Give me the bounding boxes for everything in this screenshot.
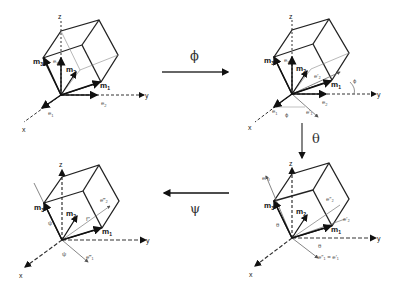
- e2-triple-prime-label: e‴₂: [100, 197, 108, 203]
- e2-prime-label: e′₂: [343, 216, 350, 222]
- m3-label: m3: [34, 203, 44, 213]
- panel-2: z y x m3 e3 m2 m1 e2 e1 e′₂ e′₁ ϕ ϕ: [248, 13, 381, 131]
- theta-angle-label: θ: [276, 222, 280, 228]
- e3-label: e3: [284, 57, 290, 65]
- e2-prime-label: e′₂: [314, 73, 321, 79]
- y-axis-label: y: [146, 237, 150, 245]
- e2-label: e2: [101, 100, 107, 108]
- psi-angle-label: ψ: [48, 220, 52, 226]
- z-axis-label: z: [59, 161, 63, 168]
- e1-triple-prime-label: e‴₁: [86, 254, 94, 260]
- theta-transition: θ: [302, 123, 320, 158]
- phi-transition: ϕ: [162, 48, 228, 72]
- x-axis: [255, 238, 292, 266]
- m2-label: m2: [66, 209, 76, 219]
- phi-angle-label: ϕ: [353, 78, 357, 84]
- e2-double-prime-label: e″₂: [326, 196, 334, 202]
- panel-4: z y x m3 m2 m1 e‴₂ e‴₁ f″ ψ ψ: [19, 161, 150, 279]
- e1-prime-axis: [292, 94, 318, 117]
- m1-label: m1: [102, 227, 112, 237]
- z-axis-label: z: [58, 13, 62, 20]
- e1-label: e1: [48, 110, 54, 118]
- euler-rotation-diagram: z y x m3 e3 m2 m1 e2 e1 ϕ z: [0, 0, 398, 293]
- z-axis-label: z: [289, 160, 293, 167]
- x-axis-label: x: [248, 124, 252, 131]
- e2-label: e2: [322, 99, 328, 107]
- e1-equality-label: e″₁ = e′₁: [318, 254, 339, 260]
- theta-label: θ: [312, 131, 320, 146]
- x-axis-label: x: [22, 126, 26, 133]
- m3-label: m3: [264, 56, 274, 66]
- psi-transition: ψ: [164, 193, 229, 216]
- m1-label: m1: [331, 225, 341, 235]
- phi-label: ϕ: [190, 48, 199, 63]
- e1-prime-axis: [292, 238, 318, 258]
- panel-3: z y x m3 m2 m1 e″₃ e″₂ e′₂ e″₁ = e′₁ θ θ: [249, 160, 381, 278]
- y-axis-label: y: [145, 92, 149, 100]
- x-axis-label: x: [19, 272, 23, 279]
- theta-angle-label-2: θ: [318, 243, 322, 249]
- e1-prime-label: e′₁: [306, 109, 313, 115]
- psi-label: ψ: [190, 201, 200, 216]
- psi-angle-label-2: ψ: [62, 251, 66, 257]
- e1-vector: [42, 95, 61, 108]
- m1-label: m1: [100, 81, 110, 91]
- panel-1: z y x m3 e3 m2 m1 e2 e1: [22, 13, 149, 133]
- e1-label: e1: [272, 108, 278, 116]
- y-axis-label: y: [377, 235, 381, 243]
- m2-vector: [61, 72, 76, 95]
- f-double-prime-label: f″: [86, 216, 91, 222]
- e3-double-prime-label: e″₃: [262, 175, 270, 181]
- m1-vector: [61, 82, 100, 95]
- e3-label: e3: [53, 58, 59, 66]
- m3-label: m3: [264, 201, 274, 211]
- m2-label: m2: [296, 207, 306, 217]
- y-axis-label: y: [377, 91, 381, 99]
- m1-label: m1: [331, 80, 341, 90]
- m2-label: m2: [66, 65, 76, 75]
- m3-label: m3: [33, 57, 43, 67]
- z-axis-label: z: [289, 13, 293, 20]
- x-axis-label: x: [249, 271, 253, 278]
- x-axis: [25, 240, 62, 267]
- m2-label: m2: [296, 64, 306, 74]
- phi-angle-label-2: ϕ: [285, 112, 289, 118]
